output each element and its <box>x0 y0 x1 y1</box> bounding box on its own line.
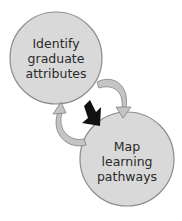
node-identify-label: Identify graduate attributes <box>14 34 98 82</box>
cycle-arrow-left-icon <box>53 102 86 146</box>
main-arrow-icon <box>82 100 101 126</box>
node-map-line-3: pathways <box>97 169 157 184</box>
node-identify-line-2: graduate <box>28 51 85 66</box>
cycle-arrow-right-icon <box>97 79 131 118</box>
node-identify-line-3: attributes <box>25 66 86 81</box>
node-identify-line-1: Identify <box>32 36 79 51</box>
node-map-label: Map learning pathways <box>85 137 169 185</box>
node-map-line-1: Map <box>114 139 140 154</box>
node-map-line-2: learning <box>102 154 153 169</box>
